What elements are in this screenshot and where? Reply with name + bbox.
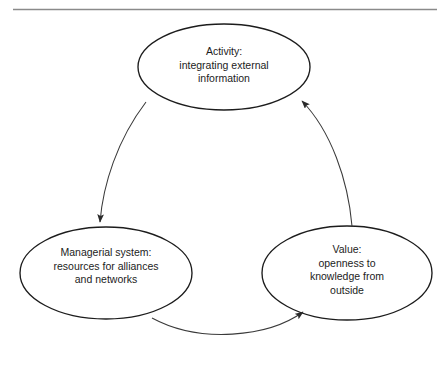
activity-ellipse <box>138 24 310 110</box>
arrow-value-to-activity <box>302 101 352 226</box>
cycle-diagram: Activity: integrating external informati… <box>0 0 448 367</box>
managerial-system-ellipse <box>20 227 192 319</box>
arrow-managerial-system-to-value <box>152 312 303 334</box>
value-ellipse <box>262 226 432 320</box>
arrow-activity-to-managerial-system <box>100 102 146 222</box>
diagram-canvas <box>0 0 448 367</box>
